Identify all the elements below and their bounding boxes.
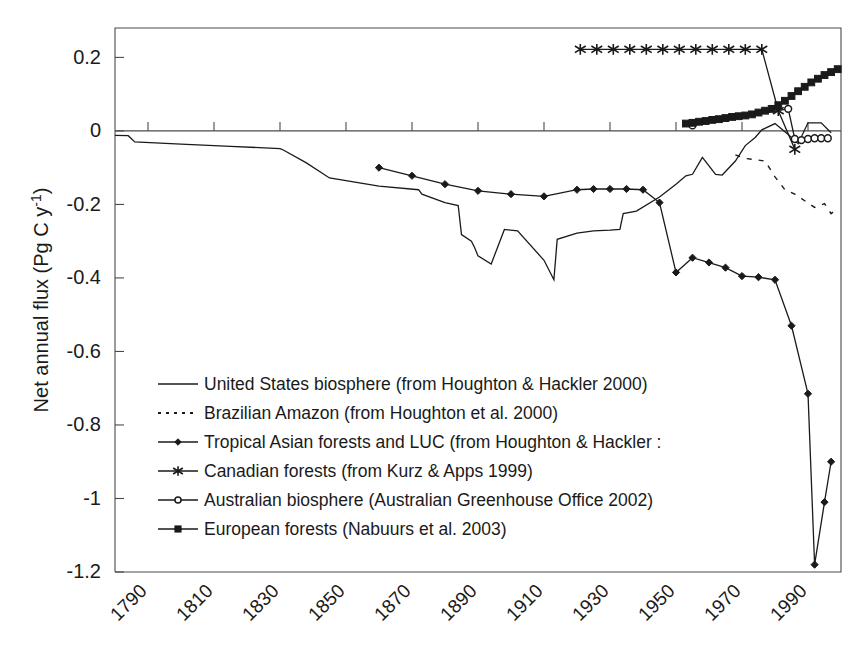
- data-point-marker: [798, 137, 805, 144]
- data-point-marker: [755, 109, 762, 116]
- y-tick-label: -0.4: [67, 266, 101, 288]
- data-point-marker: [775, 102, 782, 109]
- y-axis-title-tail: ): [30, 188, 52, 195]
- y-tick-label: -0.2: [67, 193, 101, 215]
- data-point-marker: [722, 115, 729, 122]
- data-point-marker: [782, 97, 789, 104]
- y-tick-label: -1.2: [67, 560, 101, 582]
- legend-label: United States biosphere (from Houghton &…: [204, 374, 648, 394]
- data-point-marker: [696, 118, 703, 125]
- y-axis-title-superscript: -1: [28, 194, 44, 207]
- chart-background: [0, 0, 863, 651]
- data-point-marker: [828, 69, 835, 76]
- y-axis-title: Net annual flux (Pg C y-1): [28, 188, 52, 413]
- data-point-marker: [811, 135, 818, 142]
- net-annual-flux-chart: 0.20-0.2-0.4-0.6-0.8-1-1.2 1790181018301…: [0, 0, 863, 651]
- data-point-marker: [175, 526, 181, 532]
- chart-figure: 0.20-0.2-0.4-0.6-0.8-1-1.2 1790181018301…: [0, 0, 863, 651]
- data-point-marker: [716, 116, 723, 123]
- legend-item: Australian biosphere (Australian Greenho…: [158, 490, 653, 510]
- legend-label: European forests (Nabuurs et al. 2003): [204, 519, 507, 539]
- data-point-marker: [683, 120, 690, 127]
- data-point-marker: [702, 118, 709, 125]
- data-point-marker: [795, 88, 802, 95]
- data-point-marker: [805, 136, 812, 143]
- data-point-marker: [801, 83, 808, 90]
- data-point-marker: [815, 75, 822, 82]
- data-point-marker: [824, 135, 831, 142]
- legend-label: Australian biosphere (Australian Greenho…: [204, 490, 653, 510]
- data-point-marker: [791, 136, 798, 143]
- legend-label: Tropical Asian forests and LUC (from Hou…: [204, 432, 661, 452]
- data-point-marker: [742, 112, 749, 119]
- data-point-marker: [788, 93, 795, 100]
- legend-item: Canadian forests (from Kurz & Apps 1999): [158, 461, 533, 481]
- data-point-marker: [834, 66, 841, 73]
- y-tick-label: -1: [83, 487, 101, 509]
- data-point-marker: [808, 79, 815, 86]
- legend-item: European forests (Nabuurs et al. 2003): [158, 519, 507, 539]
- legend-label: Canadian forests (from Kurz & Apps 1999): [204, 461, 533, 481]
- legend-item: Tropical Asian forests and LUC (from Hou…: [158, 432, 661, 452]
- data-point-marker: [175, 497, 181, 503]
- data-point-marker: [762, 107, 769, 114]
- data-point-marker: [768, 105, 775, 112]
- data-point-marker: [785, 105, 792, 112]
- y-tick-label: -0.6: [67, 340, 101, 362]
- data-point-marker: [709, 116, 716, 123]
- data-point-marker: [749, 111, 756, 118]
- legend-label: Brazilian Amazon (from Houghton et al. 2…: [204, 403, 558, 423]
- y-tick-label: 0.2: [73, 46, 101, 68]
- y-tick-label: 0: [90, 119, 101, 141]
- data-point-marker: [821, 72, 828, 79]
- y-tick-label: -0.8: [67, 413, 101, 435]
- data-point-marker: [729, 114, 736, 121]
- svg-text:Net annual flux (Pg C y-1): Net annual flux (Pg C y-1): [28, 188, 52, 413]
- legend-item: Brazilian Amazon (from Houghton et al. 2…: [158, 403, 558, 423]
- data-point-marker: [818, 135, 825, 142]
- legend-item: United States biosphere (from Houghton &…: [158, 374, 648, 394]
- y-axis-title-base: Net annual flux (Pg C y: [30, 207, 52, 413]
- data-point-marker: [689, 119, 696, 126]
- data-point-marker: [735, 113, 742, 120]
